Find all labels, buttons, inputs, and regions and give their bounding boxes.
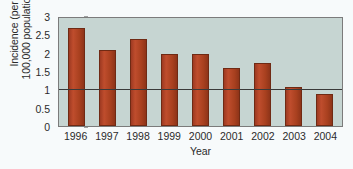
bar-slot bbox=[278, 18, 309, 126]
x-tick-label: 1998 bbox=[123, 129, 154, 143]
y-axis-title-line-1: Incidence (per bbox=[8, 1, 20, 66]
bar-slot bbox=[61, 18, 92, 126]
plot-area bbox=[58, 17, 343, 127]
bar bbox=[254, 63, 271, 126]
x-tick-label: 2004 bbox=[310, 129, 341, 143]
bar bbox=[192, 54, 209, 126]
y-tick-label: 0 bbox=[44, 121, 50, 133]
bar bbox=[99, 50, 116, 126]
bar-slot bbox=[309, 18, 340, 126]
bar bbox=[130, 39, 147, 126]
bar bbox=[316, 94, 333, 126]
bar bbox=[161, 54, 178, 126]
x-tick-label: 1999 bbox=[154, 129, 185, 143]
x-tick-label: 2002 bbox=[247, 129, 278, 143]
bar-slot bbox=[123, 18, 154, 126]
bar bbox=[223, 68, 240, 126]
y-tick-label: 1.5 bbox=[35, 66, 50, 78]
x-tick-label: 2003 bbox=[279, 129, 310, 143]
x-tick-label: 1997 bbox=[91, 129, 122, 143]
bar bbox=[285, 87, 302, 126]
bar-slot bbox=[154, 18, 185, 126]
y-tick-label: 0.5 bbox=[35, 103, 50, 115]
gridline bbox=[59, 89, 342, 90]
x-tick-label: 2001 bbox=[216, 129, 247, 143]
bar-series bbox=[59, 18, 342, 126]
y-tick-label: 3 bbox=[44, 11, 50, 23]
x-axis-title: Year bbox=[58, 145, 343, 157]
bar-slot bbox=[185, 18, 216, 126]
bar bbox=[68, 28, 85, 126]
x-axis-tick-labels: 199619971998199920002001200220032004 bbox=[58, 129, 343, 143]
y-tick-label: 2.5 bbox=[35, 29, 50, 41]
x-tick-label: 1996 bbox=[60, 129, 91, 143]
y-tick-label: 2 bbox=[44, 48, 50, 60]
y-tick-label: 1 bbox=[44, 84, 50, 96]
bar-slot bbox=[247, 18, 278, 126]
x-tick-label: 2000 bbox=[185, 129, 216, 143]
y-axis-tick-labels: 00.511.522.53 bbox=[30, 11, 54, 133]
bar-slot bbox=[216, 18, 247, 126]
bar-chart: Incidence (per 100,000 population) 00.51… bbox=[0, 0, 353, 169]
bar-slot bbox=[92, 18, 123, 126]
